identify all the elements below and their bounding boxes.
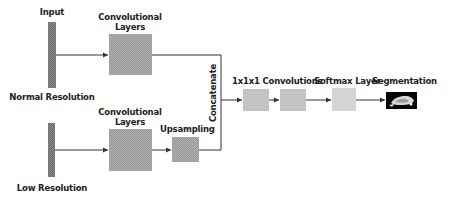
upsampling-label: Upsampling bbox=[160, 124, 212, 134]
normal-resolution-input-bar bbox=[48, 22, 56, 88]
low-resolution-label: Low Resolution bbox=[2, 183, 102, 193]
conv1x1-label: 1x1x1 Convolutions bbox=[232, 76, 314, 86]
input-title: Input bbox=[32, 7, 72, 17]
top-conv-label-line2: Layers bbox=[95, 22, 165, 32]
bottom-conv-label-line1: Convolutional bbox=[95, 107, 165, 117]
softmax-label: Softmax Layer bbox=[314, 76, 374, 86]
upsampling-box bbox=[172, 137, 199, 162]
concatenate-label: Concatenate bbox=[208, 63, 218, 123]
normal-resolution-label: Normal Resolution bbox=[2, 92, 102, 102]
top-conv-layers-box bbox=[109, 34, 152, 75]
top-conv-label-line1: Convolutional bbox=[95, 12, 165, 22]
segmentation-label: Segmentation bbox=[372, 76, 432, 86]
segmentation-shape-icon bbox=[386, 92, 417, 109]
top-conv-label: Convolutional Layers bbox=[95, 12, 165, 32]
conv1x1-box-2 bbox=[280, 89, 306, 111]
bottom-conv-label: Convolutional Layers bbox=[95, 107, 165, 127]
segmentation-output-image bbox=[386, 92, 417, 109]
bottom-conv-label-line2: Layers bbox=[95, 117, 165, 127]
bottom-conv-layers-box bbox=[109, 129, 152, 171]
conv1x1-box-1 bbox=[243, 89, 269, 111]
low-resolution-input-bar bbox=[48, 123, 55, 177]
softmax-box bbox=[332, 88, 356, 111]
